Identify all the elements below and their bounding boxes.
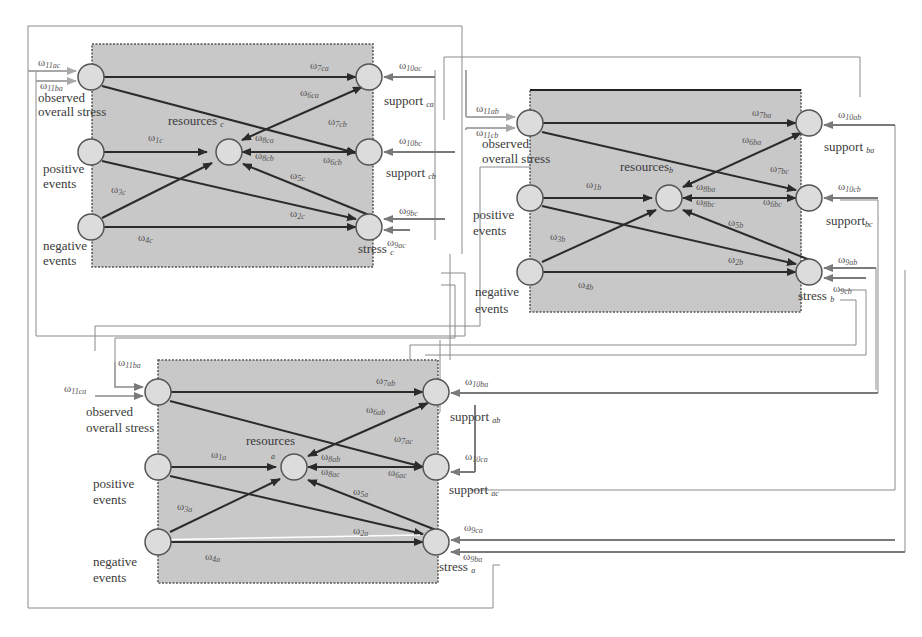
weight-w1c: ω1c [148,131,163,145]
weight-w5c: ω5c [290,169,305,183]
weight-w11ca: ω11ca [64,382,86,396]
weight-w8bc: ω8bc [696,195,715,209]
panel-b [466,70,895,312]
node-resources-b [656,185,682,211]
weight-w11cb: ω11cb [476,126,498,140]
label-overall-stress-a: overall stress [86,421,154,435]
weight-w9bc: ω9bc [399,204,418,218]
weight-w5a: ω5a [353,485,368,499]
weight-w6ba: ω6ba [742,133,761,147]
label-negative-events-a: events [93,571,126,585]
weight-w5b: ω5b [728,216,743,230]
weight-w10ac: ω10ac [399,59,422,73]
node-support-cb-c [356,139,382,165]
node-positive-a [145,454,171,480]
label-support-cb: support cb [386,166,436,184]
weight-w6ac: ω6ac [388,466,407,480]
node-support-ab-a [423,379,449,405]
label-support-ba: support ba [824,140,874,158]
label-resources-a-sub: a [271,450,275,464]
node-stress-b [796,259,822,285]
weight-w1a: ω1a [211,448,226,462]
node-resources-c [216,139,242,165]
label-observed-c: observed [38,91,85,105]
weight-w7bc: ω7bc [770,162,789,176]
label-positive-b: positive [473,208,514,222]
weight-w3c: ω3c [111,183,126,197]
label-support-ab: support ab [450,410,500,428]
weight-w9ab: ω9ab [838,253,857,267]
weight-w9cb: ω9cb [833,282,852,296]
weight-w4b: ω4b [578,278,593,292]
weight-w8ac: ω8ac [321,465,340,479]
weight-w11ba-c: ω11ba [40,79,63,93]
node-stress-a [423,529,449,555]
weight-w10bc: ω10bc [399,134,422,148]
weight-w8cb: ω8cb [255,149,274,163]
label-support-ac: support ac [449,483,499,501]
node-support-ca-c [356,64,382,90]
weight-w9ac: ω9ac [387,236,406,250]
weight-w4c: ω4c [138,231,153,245]
weight-w6cb: ω6cb [323,153,342,167]
network-diagram [0,0,922,637]
weight-w10ba: ω10ba [465,375,488,389]
weight-w7cb: ω7cb [328,115,347,129]
weight-w7ab: ω7ab [376,374,395,388]
weight-w2b: ω2b [728,253,743,267]
weight-w8ca: ω8ca [255,131,274,145]
label-negative-events-b: events [475,302,508,316]
weight-w11ba-a: ω11ba [118,356,141,370]
weight-w7ba: ω7ba [752,106,771,120]
label-stress-b: stress b [798,289,834,307]
weight-w8ba: ω8ba [696,180,715,194]
weight-w6ab: ω6ab [366,403,385,417]
label-support-bc: supportbc [826,214,873,232]
weight-w10ab: ω10ab [838,108,861,122]
node-observed-a [145,379,171,405]
label-negative-a: negative [93,555,137,569]
label-negative-events-c: events [43,254,76,268]
weight-w9ca: ω9ca [464,521,483,535]
label-positive-events-b: events [473,224,506,238]
weight-w2c: ω2c [290,207,305,221]
weight-w11ac: ω11ac [38,56,60,70]
node-support-ba-b [796,110,822,136]
weight-w7ca: ω7ca [310,59,329,73]
label-positive-c: positive [43,162,84,176]
node-stress-c [356,214,382,240]
weight-w3b: ω3b [550,230,565,244]
weight-w11ab: ω11ab [476,102,499,116]
label-positive-events-a: events [93,493,126,507]
weight-w4a: ω4a [205,550,220,564]
weight-w6bc: ω6bc [763,195,782,209]
label-resources-a: resources [246,434,295,448]
weight-w3a: ω3a [177,500,192,514]
label-resources-b: resourcesb [620,160,673,178]
weight-w6ca: ω6ca [300,86,319,100]
panel-c [28,44,455,267]
weight-w1b: ω1b [586,178,601,192]
weight-w10ca: ω10ca [465,450,488,464]
label-overall-stress-b: overall stress [482,152,550,166]
node-negative-c [78,214,104,240]
label-positive-events-c: events [43,177,76,191]
node-support-ac-a [423,454,449,480]
node-resources-a [281,454,307,480]
weight-w7ac: ω7ac [394,432,413,446]
label-positive-a: positive [93,477,134,491]
node-negative-b [517,259,543,285]
weight-w8ab: ω8ab [321,450,340,464]
node-support-bc-b [796,185,822,211]
label-support-ca: support ca [384,94,434,112]
weight-w2a: ω2a [353,524,368,538]
node-observed-b [517,110,543,136]
label-overall-stress-c: overall stress [38,105,106,119]
weight-w9ba: ω9ba [463,550,482,564]
label-negative-b: negative [475,285,519,299]
node-negative-a [145,529,171,555]
node-positive-b [517,185,543,211]
label-observed-a: observed [86,405,133,419]
label-resources-c: resources c [168,114,224,132]
label-negative-c: negative [43,239,87,253]
